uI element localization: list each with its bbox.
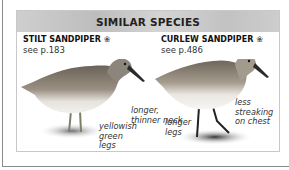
species-name: CURLEW SANDPIPER ❀ (161, 35, 263, 44)
page-reference[interactable]: see p.486 (161, 45, 263, 55)
flower-icon: ❀ (256, 35, 263, 44)
species-curlew-sandpiper: CURLEW SANDPIPER ❀ see p.486 (161, 35, 263, 55)
similar-species-panel: SIMILAR SPECIES STILT SANDPIPER ❀ see p.… (16, 10, 280, 152)
flower-icon: ❀ (104, 35, 111, 44)
species-name: STILT SANDPIPER ❀ (23, 35, 110, 44)
page-edge (2, 0, 3, 167)
species-stilt-sandpiper: STILT SANDPIPER ❀ see p.183 (23, 35, 110, 55)
panel-header: SIMILAR SPECIES (17, 11, 279, 32)
page-bottom-rule (2, 166, 289, 167)
annotation-longer-legs: longer legs (165, 118, 191, 137)
annotation-less-streaking-on-chest: less streaking on chest (235, 98, 273, 127)
panel-title: SIMILAR SPECIES (96, 16, 200, 28)
page-reference[interactable]: see p.183 (23, 45, 110, 55)
annotation-yellowish-green-legs: yellowish green legs (99, 122, 137, 151)
